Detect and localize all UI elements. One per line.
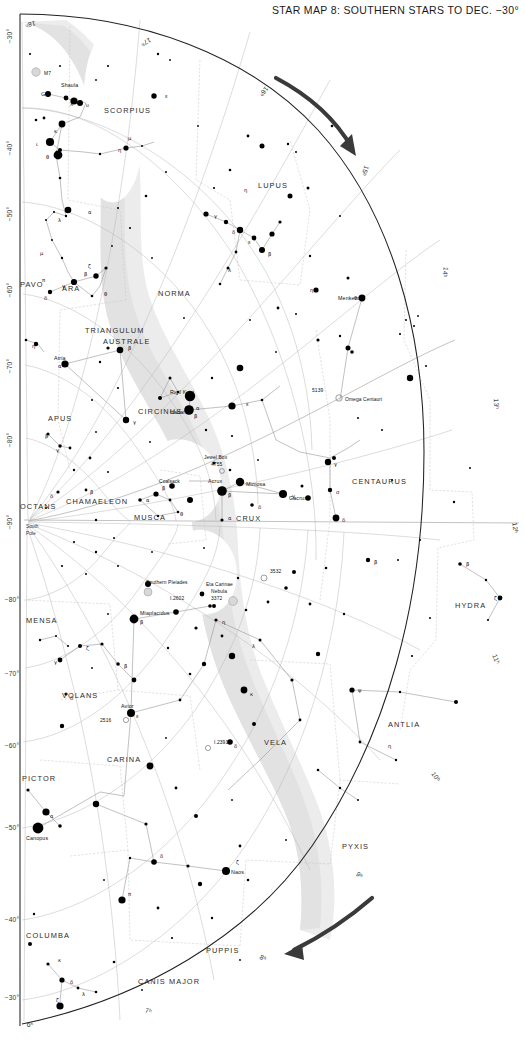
svg-text:θ: θ — [354, 295, 357, 301]
constellation-label: ANTLIA — [388, 720, 420, 729]
dec-tick-label: −50° — [5, 824, 20, 831]
svg-text:γ: γ — [133, 419, 136, 426]
svg-text:ε: ε — [246, 401, 249, 407]
star-field — [0, 53, 502, 1010]
star-name-label: Mimosa — [246, 481, 265, 487]
svg-text:δ: δ — [232, 229, 235, 235]
constellation-label: LUPUS — [258, 181, 288, 190]
ra-tick-label: 16ʰ — [258, 85, 270, 98]
south-pole-label-line1: South — [26, 524, 39, 529]
svg-text:δ: δ — [342, 517, 345, 523]
svg-text:λ: λ — [228, 267, 231, 273]
dso-label: I.2602 — [170, 596, 184, 601]
dso-label: 2516 — [100, 718, 111, 723]
ic2391-icon — [205, 745, 210, 750]
svg-text:μ: μ — [40, 250, 44, 257]
ra-tick-label: 6ʰ — [27, 1021, 34, 1028]
svg-text:δ: δ — [160, 853, 163, 859]
svg-text:G: G — [41, 91, 45, 97]
constellation-label: CHAMAELEON — [66, 497, 128, 506]
ngc2516-icon — [123, 717, 128, 722]
svg-text:η: η — [388, 743, 391, 750]
svg-text:γ: γ — [334, 461, 337, 468]
dec-tick-label: −80° — [5, 596, 20, 603]
svg-text:σ: σ — [336, 489, 340, 495]
svg-text:ε: ε — [136, 713, 139, 719]
svg-text:α: α — [146, 497, 150, 503]
svg-text:γ: γ — [292, 493, 295, 500]
dec-tick-label: −30° — [5, 994, 20, 1001]
ra-tick-label: 17ʰ — [140, 37, 153, 48]
svg-text:δ: δ — [50, 493, 53, 499]
svg-text:υ: υ — [86, 102, 89, 108]
svg-text:η: η — [310, 287, 313, 294]
svg-text:α: α — [50, 813, 54, 819]
m7-cluster-icon — [32, 68, 40, 76]
star-name-label: Atria — [54, 355, 66, 361]
svg-text:θ: θ — [180, 511, 183, 517]
constellation-label: VELA — [264, 738, 287, 747]
dso-label: 4755 — [211, 462, 222, 467]
constellation-label: VOLANS — [62, 691, 98, 700]
svg-text:θ: θ — [46, 154, 49, 160]
svg-text:β: β — [124, 663, 127, 670]
constellation-label: PYXIS — [342, 842, 369, 851]
ra-tick-label: 12ʰ — [511, 522, 519, 534]
ra-tick-label: 11ʰ — [491, 653, 501, 665]
constellation-figure-lines — [26, 94, 500, 1002]
svg-text:ζ: ζ — [56, 997, 59, 1004]
svg-text:δ: δ — [70, 695, 73, 701]
svg-text:β: β — [140, 619, 143, 626]
svg-text:β: β — [162, 485, 165, 492]
svg-text:β: β — [228, 492, 231, 499]
constellation-label: NORMA — [158, 289, 191, 298]
dso-label: Southern Pleiades — [146, 580, 188, 585]
dec-tick-label: −80° — [6, 433, 13, 448]
svg-text:β: β — [128, 345, 131, 352]
svg-text:δ: δ — [70, 979, 73, 985]
svg-text:δ: δ — [258, 504, 261, 510]
dec-tick-label: −90° — [6, 515, 13, 530]
ra-tick-label: 8ʰ — [259, 953, 268, 962]
ra-tick-label: 7ʰ — [145, 1006, 153, 1014]
dec-tick-label: −50° — [6, 207, 13, 222]
constellation-label: CENTAURUS — [352, 477, 407, 486]
dec-tick-label: −40° — [6, 141, 13, 156]
ra-tick-label: 13ʰ — [493, 398, 501, 409]
dso-label: Nebula — [211, 589, 227, 594]
svg-text:κ: κ — [54, 128, 57, 134]
southern-pleiades-icon — [144, 588, 152, 596]
star-name-label: Rigil Kent — [170, 389, 195, 395]
constellation-label: MUSCA — [134, 513, 166, 522]
south-pole-label-line2: Pole — [26, 531, 36, 536]
constellation-label: OCTANS — [20, 502, 57, 511]
constellation-label: TRIANGULUM — [85, 326, 144, 335]
star-map-page: STAR MAP 8: SOUTHERN STARS TO DEC. −30° — [0, 0, 525, 1041]
svg-text:η: η — [118, 147, 121, 154]
svg-text:γ: γ — [62, 283, 65, 290]
svg-text:λ: λ — [70, 101, 73, 107]
svg-text:λ: λ — [58, 217, 61, 223]
svg-text:β: β — [374, 559, 377, 566]
svg-text:α: α — [228, 515, 232, 521]
svg-text:η: η — [32, 343, 35, 350]
svg-text:γ: γ — [214, 213, 217, 220]
svg-text:ζ: ζ — [494, 595, 497, 602]
omega-centauri-icon — [336, 395, 342, 401]
svg-text:β: β — [84, 271, 87, 278]
dso-label: M7 — [44, 71, 51, 76]
dso-label: I.2391 — [214, 740, 228, 745]
svg-text:κ: κ — [250, 691, 253, 697]
dso-label: 3532 — [270, 569, 281, 574]
svg-text:α: α — [88, 209, 92, 215]
svg-text:θ: θ — [104, 291, 107, 297]
ra-tick-label: 10ʰ — [430, 770, 442, 783]
star-name-label: Avior — [121, 703, 134, 709]
svg-text:β: β — [268, 251, 271, 258]
constellation-label: AUSTRALE — [103, 337, 150, 346]
dso-label: Jewel Box — [204, 455, 228, 460]
dec-tick-label: −30° — [6, 29, 13, 44]
svg-text:λ: λ — [252, 643, 255, 649]
constellation-label: PICTOR — [22, 774, 56, 783]
svg-text:α: α — [58, 363, 62, 369]
